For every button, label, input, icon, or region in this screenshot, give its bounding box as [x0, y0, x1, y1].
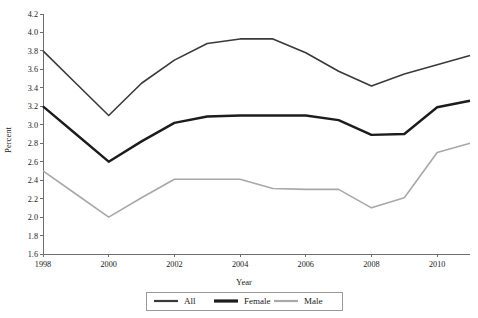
y-tick-label: 4.0	[28, 28, 38, 37]
legend-label-all: All	[184, 296, 196, 306]
y-tick-label: 2.8	[28, 139, 38, 148]
chart-background	[0, 0, 478, 318]
y-axis-title: Percent	[3, 127, 13, 153]
figure-container: 1.61.82.02.22.42.62.83.03.23.43.63.84.04…	[0, 0, 478, 318]
y-tick-label: 3.8	[28, 47, 38, 56]
figure-caption	[0, 308, 478, 318]
legend-label-female: Female	[244, 296, 271, 306]
y-tick-label: 1.6	[28, 250, 38, 259]
y-tick-label: 2.2	[28, 195, 38, 204]
x-tick-label: 2000	[101, 260, 117, 269]
y-tick-label: 2.4	[28, 176, 38, 185]
y-tick-label: 1.8	[28, 232, 38, 241]
y-tick-label: 3.4	[28, 84, 38, 93]
x-tick-label: 2002	[166, 260, 182, 269]
y-tick-label: 3.0	[28, 121, 38, 130]
line-chart: 1.61.82.02.22.42.62.83.03.23.43.63.84.04…	[0, 0, 478, 318]
y-tick-label: 3.6	[28, 65, 38, 74]
y-tick-label: 4.2	[28, 10, 38, 19]
x-tick-label: 2008	[363, 260, 379, 269]
y-tick-label: 3.2	[28, 102, 38, 111]
y-tick-label: 2.0	[28, 213, 38, 222]
legend-label-male: Male	[304, 296, 323, 306]
x-axis-title: Year	[236, 277, 252, 287]
x-tick-label: 1998	[35, 260, 51, 269]
y-tick-label: 2.6	[28, 158, 38, 167]
x-tick-label: 2006	[298, 260, 314, 269]
x-tick-label: 2004	[232, 260, 248, 269]
x-tick-label: 2010	[429, 260, 445, 269]
